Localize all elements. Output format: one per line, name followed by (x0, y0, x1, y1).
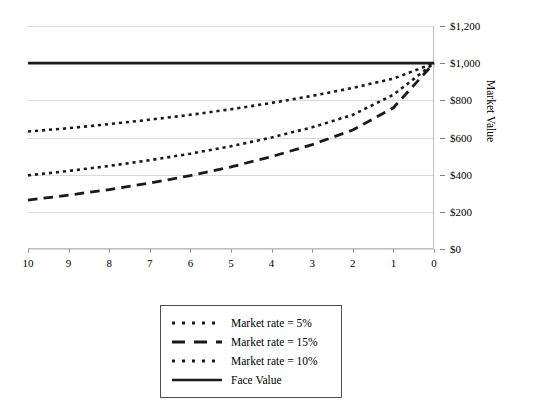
y-tick-600 (440, 138, 445, 139)
x-tick-10 (28, 249, 29, 253)
series-line (28, 63, 434, 131)
y-tick-1200 (440, 26, 445, 27)
x-axis-tick-label: 0 (431, 258, 437, 269)
legend-label: Market rate = 10% (231, 355, 318, 367)
y-axis-title: Market Value (485, 80, 497, 200)
x-axis-tick-label: 6 (188, 258, 194, 269)
x-tick-2 (353, 249, 354, 253)
x-tick-0 (434, 249, 435, 253)
y-axis-labels: $0$200$400$600$800$1,000$1,200 (440, 0, 510, 280)
legend-item[interactable]: Market rate = 10% (161, 351, 341, 370)
series-line (28, 63, 434, 200)
x-axis-labels: 109876543210 (0, 252, 549, 274)
legend-label: Face Value (231, 374, 282, 386)
y-tick-1000 (440, 63, 445, 64)
y-tick-200 (440, 212, 445, 213)
x-axis-tick-label: 10 (23, 258, 34, 269)
x-axis-tick-label: 5 (228, 258, 234, 269)
x-axis-tick-label: 7 (147, 258, 153, 269)
legend-label: Market rate = 5% (231, 317, 312, 329)
y-tick-400 (440, 175, 445, 176)
legend-item[interactable]: Market rate = 15% (161, 332, 341, 351)
x-tick-9 (69, 249, 70, 253)
x-tick-8 (109, 249, 110, 253)
y-axis-tick-label: $400 (450, 169, 472, 180)
x-tick-6 (190, 249, 191, 253)
chart-legend: Market rate = 5%Market rate = 15%Market … (160, 305, 342, 398)
x-tick-4 (272, 249, 273, 253)
x-tick-1 (393, 249, 394, 253)
series-line (28, 63, 434, 175)
x-axis-tick-label: 3 (309, 258, 315, 269)
y-axis-tick-label: $200 (450, 206, 472, 217)
y-tick-0 (440, 249, 445, 250)
legend-item[interactable]: Face Value (161, 370, 341, 389)
legend-label: Market rate = 15% (231, 336, 318, 348)
x-axis-tick-label: 8 (106, 258, 112, 269)
y-axis-tick-label: $800 (450, 95, 472, 106)
legend-line-swatch (171, 375, 223, 385)
x-tick-3 (312, 249, 313, 253)
y-tick-800 (440, 100, 445, 101)
series-lines (28, 26, 434, 249)
chart-root: $0$200$400$600$800$1,000$1,200 Market Va… (0, 0, 549, 401)
x-axis-tick-label: 9 (66, 258, 72, 269)
plot-area (28, 26, 434, 249)
x-tick-5 (231, 249, 232, 253)
x-tick-7 (150, 249, 151, 253)
x-axis-tick-label: 2 (350, 258, 356, 269)
legend-item[interactable]: Market rate = 5% (161, 313, 341, 332)
legend-line-swatch (171, 337, 223, 347)
legend-line-swatch (171, 318, 223, 328)
legend-line-swatch (171, 356, 223, 366)
y-axis-tick-label: $1,200 (450, 21, 480, 32)
y-axis-tick-label: $600 (450, 132, 472, 143)
x-axis-tick-label: 1 (391, 258, 397, 269)
x-axis-tick-label: 4 (269, 258, 275, 269)
y-axis-tick-label: $1,000 (450, 58, 480, 69)
